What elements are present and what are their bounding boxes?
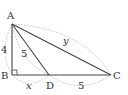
measure-bd: x: [26, 80, 32, 91]
vertex-label-a: A: [6, 10, 15, 21]
measure-ad: 5: [21, 48, 27, 59]
right-angle-marker: [12, 70, 17, 75]
measure-ac: y: [62, 35, 69, 46]
measure-dc: 5: [78, 80, 84, 91]
measure-ab: 4: [1, 44, 7, 55]
segment-ad: [12, 24, 49, 75]
vertex-label-d: D: [46, 80, 54, 91]
vertex-label-c: C: [113, 70, 121, 81]
vertex-label-b: B: [1, 70, 8, 81]
triangle-diagram: A B D C 4 5 y x 5: [0, 0, 128, 95]
